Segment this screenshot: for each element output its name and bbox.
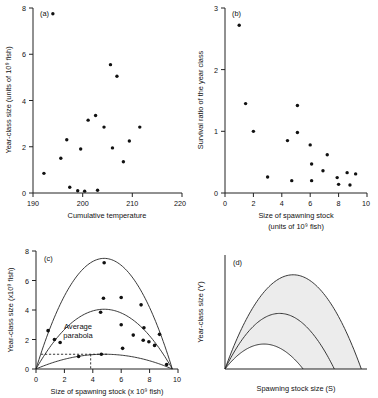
panel-c-ylabel: Year-class size (x10⁹ fish) <box>6 267 15 352</box>
panel-a-label-group: (a) <box>40 9 49 18</box>
panel-b-xtick-6: 6 <box>308 199 312 208</box>
data-point <box>83 189 86 192</box>
data-point <box>142 326 146 330</box>
data-point <box>238 24 241 27</box>
data-point <box>310 162 313 165</box>
data-point <box>158 333 162 337</box>
panel-c-xtick-6: 6 <box>119 375 123 384</box>
panel-a-xlabel: Cumulative temperature <box>68 211 147 220</box>
panel-c-xtick-0: 0 <box>34 375 38 384</box>
panel-c-xtick-10: 10 <box>173 375 181 384</box>
data-point <box>51 12 54 15</box>
panel-c-curves <box>36 258 172 369</box>
data-point <box>147 340 151 344</box>
data-point <box>102 261 106 265</box>
data-point <box>345 171 348 174</box>
panel-b-xtick-2: 2 <box>251 199 255 208</box>
data-point <box>94 114 97 117</box>
panel-c-annotation-line1: Average <box>64 322 92 331</box>
panel-b-ylabel: Survival ratio of the year class <box>196 50 205 149</box>
panel-b-xtick-0: 0 <box>223 199 227 208</box>
panel-c-xtick-8: 8 <box>148 375 152 384</box>
average-parabola <box>36 309 172 369</box>
panel-a-points <box>42 12 141 193</box>
data-point <box>131 333 135 337</box>
panel-b-x-ticks: 0 2 4 6 8 10 <box>223 193 370 208</box>
data-point <box>119 323 123 327</box>
data-point <box>310 179 313 182</box>
data-point <box>111 146 114 149</box>
data-point <box>139 303 143 307</box>
data-point <box>266 175 269 178</box>
data-point <box>59 157 62 160</box>
data-point <box>100 352 104 356</box>
data-point <box>252 130 255 133</box>
data-point <box>65 138 68 141</box>
panel-a-ytick-0: 0 <box>22 189 26 198</box>
data-point <box>42 172 45 175</box>
data-point <box>99 310 103 314</box>
data-point <box>138 125 141 128</box>
data-point <box>244 102 247 105</box>
panel-a-label: (a) <box>40 9 49 18</box>
data-point <box>354 172 357 175</box>
panel-c-ytick-2: 2 <box>25 336 29 345</box>
data-point <box>309 143 312 146</box>
data-point <box>122 160 125 163</box>
panel-d-label: (d) <box>233 258 242 267</box>
panel-b-xlabel-line2: (units of 10⁹ fish) <box>268 222 324 231</box>
data-point <box>86 118 89 121</box>
figure-container: (a) 0 2 4 6 8 190 200 210 220 <box>0 0 378 398</box>
panel-b-ytick-3: 3 <box>214 4 218 13</box>
data-point <box>46 329 50 333</box>
panel-c-xtick-2: 2 <box>62 375 66 384</box>
panel-a-xtick-200: 200 <box>77 199 89 208</box>
panel-a-xtick-210: 210 <box>126 199 138 208</box>
data-point <box>121 347 125 351</box>
panel-a-ytick-6: 6 <box>22 50 26 59</box>
panel-c-x-ticks: 0 2 4 6 8 10 <box>34 369 181 384</box>
panel-b-xtick-4: 4 <box>280 199 284 208</box>
panel-a-xtick-190: 190 <box>27 199 39 208</box>
panel-a-ylabel: Year-class size (units of 10⁹ fish) <box>4 46 13 153</box>
data-point <box>53 338 57 342</box>
data-point <box>102 296 106 300</box>
lower-parabola <box>36 354 172 369</box>
panel-b-ytick-0: 0 <box>214 189 218 198</box>
data-point <box>153 344 157 348</box>
data-point <box>68 186 71 189</box>
panel-a-xtick-220: 220 <box>174 199 186 208</box>
data-point <box>115 75 118 78</box>
data-point <box>337 183 340 186</box>
data-point <box>58 341 62 345</box>
panel-c-annotation-line2: parabola <box>63 331 93 340</box>
data-point <box>96 189 99 192</box>
panel-a-x-ticks: 190 200 210 220 <box>27 193 186 208</box>
panel-a-ytick-4: 4 <box>22 97 26 106</box>
panel-a: (a) 0 2 4 6 8 190 200 210 220 <box>0 0 189 222</box>
panel-a-ytick-2: 2 <box>22 143 26 152</box>
data-point <box>296 131 299 134</box>
panel-a-y-ticks: 0 2 4 6 8 <box>22 4 33 198</box>
upper-parabola <box>36 258 172 369</box>
data-point <box>290 179 293 182</box>
panel-c-ytick-4: 4 <box>25 306 29 315</box>
panel-c-label: (c) <box>44 254 53 263</box>
panel-c-ytick-0: 0 <box>25 365 29 374</box>
data-point <box>79 147 82 150</box>
panel-c: (c) 0 2 4 6 8 0 2 4 6 8 10 <box>0 243 189 398</box>
panel-d: (d) Spawning stock size (S) Year-class s… <box>189 243 378 398</box>
data-point <box>326 153 329 156</box>
panel-d-xlabel: Spawning stock size (S) <box>257 384 336 393</box>
panel-b: (b) 0 1 2 3 0 2 4 6 8 10 Size of <box>189 0 378 240</box>
data-point <box>296 104 299 107</box>
panel-b-xlabel-line1: Size of spawning stock <box>258 211 333 220</box>
panel-c-dashed-guides <box>41 354 107 369</box>
panel-c-ytick-6: 6 <box>25 277 29 286</box>
panel-c-points <box>46 261 168 366</box>
panel-c-xtick-4: 4 <box>91 375 95 384</box>
panel-c-ytick-8: 8 <box>25 247 29 256</box>
data-point <box>348 183 351 186</box>
data-point <box>102 125 105 128</box>
panel-b-y-ticks: 0 1 2 3 <box>214 4 225 198</box>
